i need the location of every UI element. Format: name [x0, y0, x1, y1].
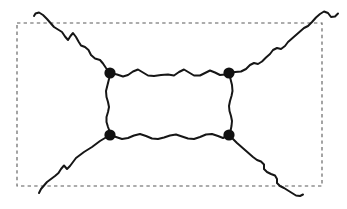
vertex-bottom-right — [223, 129, 234, 140]
box-diagram-svg — [0, 0, 347, 209]
vertex-bottom-left — [104, 129, 115, 140]
vertex-top-left — [104, 67, 115, 78]
figure-root — [0, 0, 347, 209]
vertex-top-right — [223, 67, 234, 78]
